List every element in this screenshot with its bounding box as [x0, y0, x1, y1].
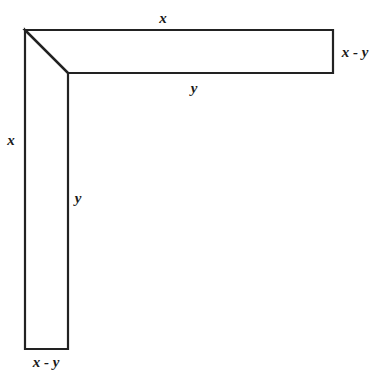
vertical-strip — [25, 30, 68, 349]
label-inner-horizontal-edge: y — [191, 81, 198, 96]
label-top-edge: x — [159, 11, 167, 26]
label-inner-vertical-edge: y — [75, 191, 82, 206]
label-left-edge: x — [7, 133, 15, 148]
label-bottom-edge: x - y — [33, 355, 60, 370]
horizontal-strip — [25, 30, 333, 73]
l-shape-diagram — [0, 0, 375, 373]
miter-diagonal — [25, 30, 68, 73]
label-right-edge: x - y — [342, 45, 369, 60]
